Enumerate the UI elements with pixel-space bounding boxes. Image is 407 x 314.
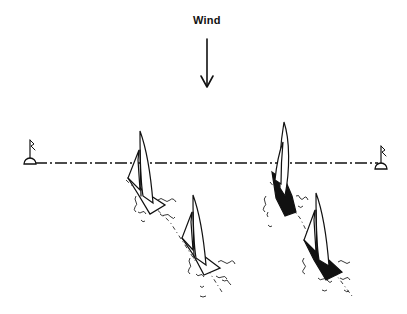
left-buoy-flag-icon	[24, 140, 36, 164]
sailing-start-diagram: Wind	[0, 0, 407, 314]
wind-arrow-icon	[201, 39, 213, 87]
right-buoy-flag-icon	[375, 146, 387, 169]
diagram-canvas	[0, 0, 407, 314]
boat-left-trailing	[182, 195, 235, 297]
boat-right-trailing	[303, 193, 353, 296]
